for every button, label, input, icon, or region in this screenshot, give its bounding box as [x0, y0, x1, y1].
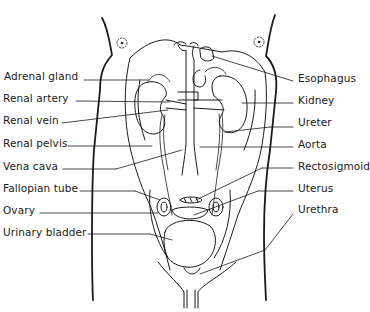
label-renal-pelvis: Renal pelvis [3, 138, 67, 149]
label-aorta: Aorta [298, 139, 327, 150]
label-adrenal-gland: Adrenal gland [4, 71, 78, 82]
label-ureter: Ureter [298, 117, 332, 128]
label-fallopian-tube: Fallopian tube [3, 183, 78, 194]
great-vessels [166, 42, 224, 175]
label-urethra: Urethra [298, 204, 338, 215]
label-uterus: Uterus [298, 183, 333, 194]
label-kidney: Kidney [298, 95, 334, 106]
label-esophagus: Esophagus [298, 73, 356, 84]
label-rectosigmoid: Rectosigmoid [298, 161, 370, 172]
abdominal-cavity [125, 40, 266, 270]
right-kidney [212, 76, 247, 133]
label-renal-artery: Renal artery [3, 93, 69, 104]
label-renal-vein: Renal vein [3, 115, 59, 126]
left-kidney [135, 82, 167, 134]
label-ovary: Ovary [3, 205, 35, 216]
label-vena-cava: Vena cava [3, 161, 58, 172]
pelvic-organs [150, 190, 236, 308]
label-urinary-bladder: Urinary bladder [3, 227, 87, 238]
